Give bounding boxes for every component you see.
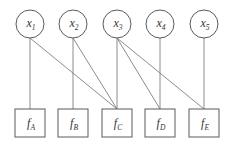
edge-x3-fD [117,38,160,109]
variable-node-x3: x3 [103,10,131,38]
variable-node-x4: x4 [146,10,174,38]
factor-node-fA: fA [15,109,45,137]
edge-x2-fC [73,38,117,109]
variable-node-x1: x1 [16,10,44,38]
edge-x3-fE [117,38,204,109]
factor-node-fB: fB [58,109,88,137]
variable-node-x5: x5 [190,10,218,38]
factor-graph: x1x2x3x4x5 fAfBfCfDfE [0,0,229,147]
factor-nodes: fAfBfCfDfE [15,109,219,137]
edges [30,38,204,109]
variable-node-x2: x2 [59,10,87,38]
edge-x1-fC [30,38,117,109]
factor-node-fE: fE [189,109,219,137]
variable-nodes: x1x2x3x4x5 [16,10,218,38]
factor-node-fC: fC [102,109,132,137]
factor-node-fD: fD [145,109,175,137]
